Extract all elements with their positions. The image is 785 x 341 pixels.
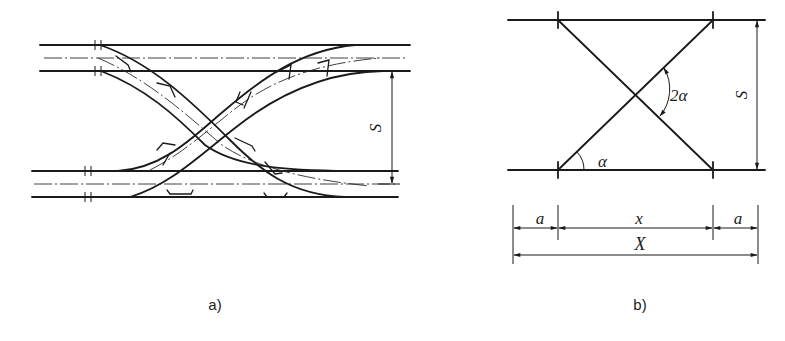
panel-a-scissors-crossover: S <box>32 40 410 202</box>
dimension-s-a: S <box>366 71 400 184</box>
figure-canvas: S α 2α S a <box>0 0 785 341</box>
panel-a-s-label: S <box>366 123 385 132</box>
crossover-descending <box>98 45 370 197</box>
dim-x-label: x <box>634 209 643 228</box>
panel-b-s-label: S <box>732 90 751 99</box>
b-horizontal-dimensions: a x a X <box>513 205 758 264</box>
alpha-arc <box>577 152 584 170</box>
dim-a-right-label: a <box>734 209 743 228</box>
panel-b-geometry: α 2α S a x a X <box>508 12 765 264</box>
guard-rails <box>116 56 329 197</box>
two-alpha-label: 2α <box>670 86 689 105</box>
dim-a-left-label: a <box>536 209 545 228</box>
alpha-label: α <box>598 152 608 171</box>
caption-b: b) <box>633 296 646 313</box>
dim-total-x-label: X <box>634 234 647 254</box>
caption-a: a) <box>208 296 221 313</box>
two-alpha-arc <box>660 68 670 116</box>
crossover-ascending <box>118 45 383 197</box>
